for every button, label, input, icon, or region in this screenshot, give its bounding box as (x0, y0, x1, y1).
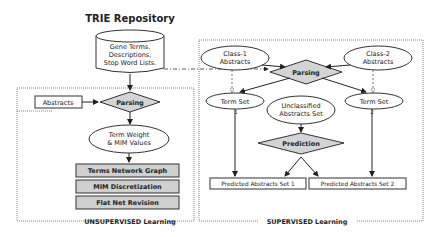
step-label-1: Terms Network Graph (88, 167, 168, 175)
abstracts-label: Abstracts (43, 99, 74, 107)
arrow-prediction-to-predicted1 (285, 157, 301, 176)
class1-line-2: Abstracts (220, 58, 251, 66)
parsing-label-supervised: Parsing (292, 69, 320, 77)
repository-cylinder: Gene Terms, Descriptions, Stop Word List… (96, 30, 164, 73)
term-weight-line-2: & MIM Values (107, 139, 151, 147)
class2-line-2: Abstracts (363, 58, 394, 66)
predicted-set-2-label: Predicted Abstracts Set 2 (321, 181, 395, 187)
arrow-parsing-to-termset1 (240, 78, 290, 92)
arrow-class1-to-parsing (262, 65, 285, 67)
term-weight-line-1: Term Weight (108, 131, 150, 139)
repository-title: TRIE Repository (85, 13, 175, 24)
step-label-2: MIM Discretization (93, 183, 162, 191)
repository-line-3: Stop Word Lists. (104, 59, 156, 67)
unsupervised-label: UNSUPERVISED Learning (84, 218, 176, 226)
supervised-label: SUPERVISED Learning (267, 218, 348, 226)
workflow-diagram: TRIE Repository Gene Terms, Descriptions… (0, 0, 428, 237)
parsing-label-unsupervised: Parsing (116, 99, 144, 107)
step-label-3: Flat Net Revision (96, 199, 159, 207)
term-set-1-label: Term Set (220, 98, 250, 106)
predicted-set-1-label: Predicted Abstracts Set 1 (221, 181, 295, 187)
unclassified-line-1: Unclassified (281, 102, 320, 110)
arrow-class2-to-parsing (326, 65, 350, 67)
repository-line-1: Gene Terms, (110, 43, 150, 51)
unclassified-line-2: Abstracts Set (279, 110, 323, 118)
term-set-2-label: Term Set (359, 98, 389, 106)
prediction-label: Prediction (282, 140, 320, 148)
arrow-prediction-to-predicted2 (301, 157, 318, 176)
arrow-parsing-to-termset2 (322, 78, 366, 92)
repository-line-2: Descriptions, (109, 51, 151, 59)
